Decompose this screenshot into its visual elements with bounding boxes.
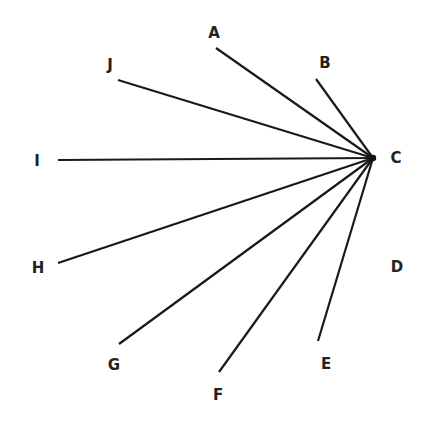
label-g: G [108, 358, 120, 373]
label-c-hub: C [390, 151, 401, 166]
ray-f-to-c [219, 158, 373, 372]
ray-j-to-c [118, 80, 373, 158]
label-h: H [32, 261, 45, 276]
ray-i-to-c [58, 158, 373, 160]
ray-a-to-c [216, 48, 373, 158]
ray-g-to-c [119, 158, 373, 344]
label-f: F [213, 388, 223, 403]
radial-diagram: A B D E F G H I J C [0, 0, 430, 427]
label-b: B [319, 56, 330, 71]
label-e: E [321, 357, 331, 372]
hub-point-c [370, 155, 376, 161]
label-d: D [391, 260, 403, 275]
ray-h-to-c [58, 158, 373, 263]
ray-e-to-c [318, 158, 373, 341]
label-i: I [34, 154, 40, 169]
label-j: J [107, 58, 113, 73]
label-a: A [208, 26, 220, 41]
rays-layer [0, 0, 430, 427]
ray-b-to-c [316, 79, 373, 158]
